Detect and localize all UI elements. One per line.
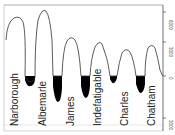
profile-line xyxy=(6,10,163,82)
tick-label-0: 0 xyxy=(168,77,173,80)
tick-label-3000: 3000 xyxy=(168,47,173,58)
island-label-charles: Charles xyxy=(119,92,130,126)
trough-indefatigable-charles xyxy=(110,76,117,83)
island-label-chatham: Chatham xyxy=(146,85,157,126)
elevation-profile-diagram: 6000 3000 0 3000 Narborough Albemarle Ja… xyxy=(0,0,175,135)
trough-albemarle-james xyxy=(53,76,62,102)
trough-charles-chatham xyxy=(136,76,145,93)
island-label-narborough: Narborough xyxy=(9,73,20,126)
island-label-indefatigable: Indefatigable xyxy=(92,68,103,126)
trough-narborough-albemarle xyxy=(25,76,35,86)
island-label-albemarle: Albemarle xyxy=(37,81,48,126)
tick-label-6000: 6000 xyxy=(168,20,173,31)
island-label-james: James xyxy=(65,97,76,126)
tick-label-minus-3000: 3000 xyxy=(168,120,173,131)
trough-james-indefatigable xyxy=(81,76,90,98)
